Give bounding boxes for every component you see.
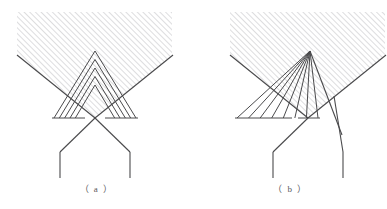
hatch-fill [17, 12, 172, 118]
tail-right-diagonal [95, 118, 130, 152]
hatched-region [17, 12, 172, 118]
panel-a-caption: （ a ） [0, 182, 193, 195]
panel-b: （ b ） [194, 0, 387, 209]
figure-root: （ a ） （ b ） [0, 0, 387, 209]
tail-right-diagonal [334, 96, 343, 152]
tail-left-diagonal [60, 118, 95, 152]
tail-left-diagonal [273, 118, 308, 152]
panel-a-diagram [0, 0, 193, 182]
panel-b-diagram [194, 0, 387, 182]
panel-b-caption: （ b ） [194, 182, 387, 195]
panel-a: （ a ） [0, 0, 193, 209]
